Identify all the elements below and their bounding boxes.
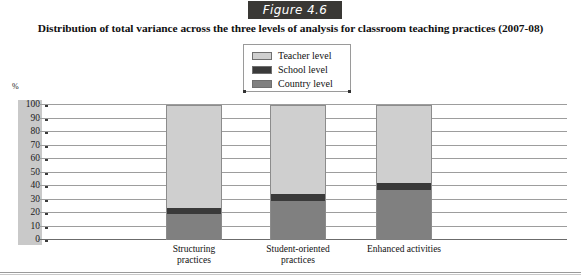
legend-swatch-country-level <box>252 80 272 88</box>
y-axis-tick-label-100: 100 <box>14 100 40 110</box>
x-axis-label-0-line1: Structuring <box>134 244 254 255</box>
legend-item-teacher-level: Teacher level <box>252 49 350 63</box>
legend-swatch-school-level <box>252 66 272 74</box>
x-axis-label-2: Enhanced activities <box>344 244 464 255</box>
y-axis-tick-label-80: 80 <box>14 127 40 137</box>
bar-segment-teacher-level-0[interactable] <box>166 105 222 208</box>
legend-anchor-right-icon <box>348 90 351 93</box>
y-axis-tick-label-40: 40 <box>14 181 40 191</box>
figure-number-label: Figure 4.6 <box>263 4 328 16</box>
bar-column-2[interactable] <box>376 105 432 240</box>
x-axis-label-0-line2: practices <box>134 255 254 266</box>
legend-item-school-level: School level <box>252 63 350 77</box>
chart-legend: Teacher level School level Country level <box>243 44 351 92</box>
y-axis-tick-label-60: 60 <box>14 154 40 164</box>
bar-column-1[interactable] <box>270 105 326 240</box>
x-axis-label-1-line2: practices <box>238 255 358 266</box>
y-axis-tick-label-70: 70 <box>14 141 40 151</box>
bar-segment-school-level-1[interactable] <box>270 194 326 201</box>
bar-segment-country-level-2[interactable] <box>376 190 432 240</box>
bar-segment-country-level-1[interactable] <box>270 201 326 240</box>
page-title: Distribution of total variance across th… <box>0 22 581 34</box>
footer-divider <box>0 272 581 273</box>
footer-divider-secondary <box>0 274 581 275</box>
y-axis-unit-label: % <box>12 82 19 91</box>
y-axis-tick-label-30: 30 <box>14 195 40 205</box>
legend-label-school-level: School level <box>278 65 328 75</box>
x-axis-label-0: Structuringpractices <box>134 244 254 266</box>
x-axis-label-1-line1: Student-oriented <box>238 244 358 255</box>
y-axis-tick-label-0: 0 <box>14 235 40 245</box>
bar-segment-school-level-2[interactable] <box>376 183 432 190</box>
plot-area <box>38 105 567 240</box>
y-axis-tick-label-90: 90 <box>14 114 40 124</box>
legend-swatch-teacher-level <box>252 52 272 60</box>
legend-anchor-left-icon <box>243 90 246 93</box>
bar-segment-school-level-0[interactable] <box>166 208 222 215</box>
figure-page: Figure 4.6 Distribution of total varianc… <box>0 0 581 280</box>
bar-segment-teacher-level-2[interactable] <box>376 105 432 183</box>
bar-column-0[interactable] <box>166 105 222 240</box>
bar-segment-teacher-level-1[interactable] <box>270 105 326 194</box>
figure-number-badge: Figure 4.6 <box>248 1 342 19</box>
legend-item-country-level: Country level <box>252 77 350 91</box>
x-axis-label-1: Student-orientedpractices <box>238 244 358 266</box>
y-axis-tick-label-10: 10 <box>14 222 40 232</box>
bar-segment-country-level-0[interactable] <box>166 214 222 240</box>
y-axis-tick-label-20: 20 <box>14 208 40 218</box>
legend-label-teacher-level: Teacher level <box>278 51 331 61</box>
x-axis-label-2-line1: Enhanced activities <box>344 244 464 255</box>
y-axis-tick-label-50: 50 <box>14 168 40 178</box>
legend-label-country-level: Country level <box>278 79 333 89</box>
